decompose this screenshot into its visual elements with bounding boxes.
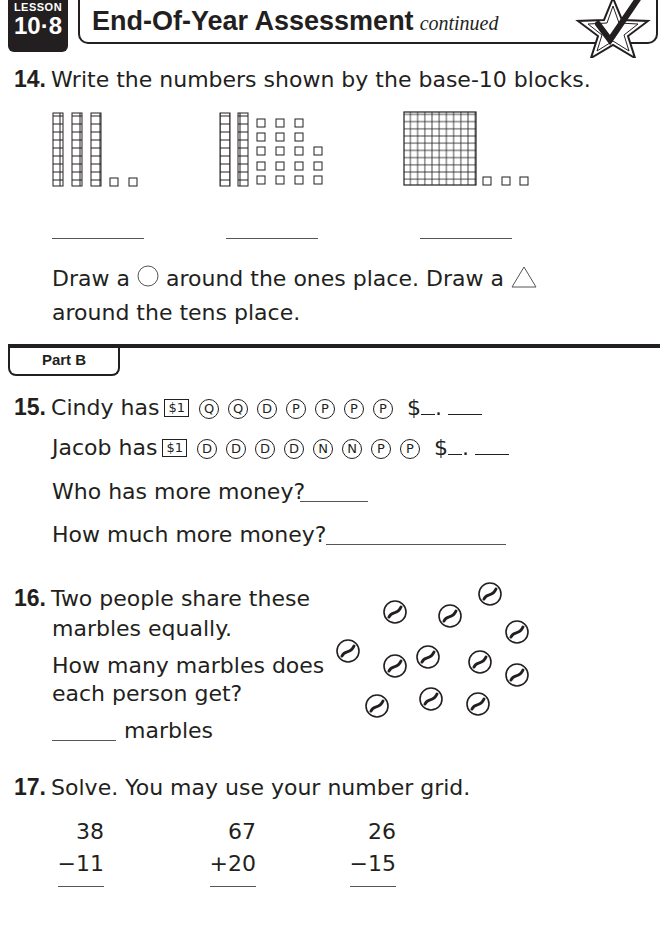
q16-prompt: 16. Two people share these marbles equal… xyxy=(14,584,310,645)
who-more-text: Who has more money? xyxy=(52,479,305,504)
instr-2: around the ones place. Draw a xyxy=(166,266,504,291)
dime-icon: D xyxy=(255,439,275,459)
penny-icon: P xyxy=(315,399,335,419)
decimal-point: . xyxy=(462,435,469,460)
marble-icon xyxy=(417,646,439,668)
penny-icon: P xyxy=(344,399,364,419)
marble-icon xyxy=(366,695,388,717)
q16-line1: Two people share these xyxy=(51,586,310,611)
dime-icon: D xyxy=(197,439,217,459)
q15-number: 15. xyxy=(14,394,46,420)
marble-icon xyxy=(467,693,489,715)
dollars-blank-cindy[interactable] xyxy=(421,414,435,415)
q17-text: Solve. You may use your number grid. xyxy=(51,775,470,800)
who-more-answer[interactable] xyxy=(300,501,368,502)
q15-question2: How much more money? xyxy=(52,522,326,547)
q14-number: 14. xyxy=(14,66,46,92)
q16-question: How many marbles does each person get? xyxy=(52,652,324,708)
quarter-icon: Q xyxy=(228,399,248,419)
cindy-label: Cindy has xyxy=(51,395,159,420)
answer-line-14b[interactable] xyxy=(226,238,318,239)
problem-1-bottom: −11 xyxy=(44,848,104,880)
problem-2-answer-line[interactable] xyxy=(210,886,256,887)
q16-line4: each person get? xyxy=(52,681,242,706)
how-much-more-answer[interactable] xyxy=(326,544,506,545)
part-b-label: Part B xyxy=(8,348,120,376)
penny-icon: P xyxy=(371,439,391,459)
marble-icon xyxy=(439,605,461,627)
problem-1-top: 38 xyxy=(44,816,104,848)
nickel-icon: N xyxy=(342,439,362,459)
block-set-3 xyxy=(404,112,528,185)
marble-icon xyxy=(469,651,491,673)
dollar-sign: $ xyxy=(434,435,448,460)
penny-icon: P xyxy=(286,399,306,419)
dollar-sign: $ xyxy=(407,395,421,420)
answer-line-14c[interactable] xyxy=(420,238,512,239)
q15-row-cindy: 15. Cindy has $1QQDPPPP $. xyxy=(14,394,482,421)
problem-1-answer-line[interactable] xyxy=(58,886,104,887)
quarter-icon: Q xyxy=(199,399,219,419)
star-checkmark-icon xyxy=(568,0,658,58)
marble-icon xyxy=(384,601,406,623)
answer-line-14a[interactable] xyxy=(52,238,144,239)
nickel-icon: N xyxy=(313,439,333,459)
marble-icon xyxy=(506,664,528,686)
triangle-icon xyxy=(511,265,537,289)
marbles-group xyxy=(320,570,560,730)
dollars-blank-jacob[interactable] xyxy=(448,454,462,455)
instr-3: around the tens place. xyxy=(52,300,300,325)
q16-number: 16. xyxy=(14,585,46,611)
marble-icon xyxy=(506,621,528,643)
block-set-1 xyxy=(53,113,137,186)
q14-text: Write the numbers shown by the base-10 b… xyxy=(51,67,591,92)
problem-2: 67 +20 xyxy=(196,816,256,887)
title-suffix: continued xyxy=(420,12,499,34)
lesson-tab: LESSON 10·8 xyxy=(8,0,68,52)
marbles-unit: marbles xyxy=(124,718,213,743)
problem-3-top: 26 xyxy=(336,816,396,848)
problem-3-answer-line[interactable] xyxy=(350,886,396,887)
instr-1: Draw a xyxy=(52,266,130,291)
dollar-bill-icon: $1 xyxy=(164,399,189,417)
marble-icon xyxy=(384,655,406,677)
dime-icon: D xyxy=(226,439,246,459)
problem-3-bottom: −15 xyxy=(336,848,396,880)
page-title: End-Of-Year Assessmentcontinued xyxy=(92,6,499,37)
title-main: End-Of-Year Assessment xyxy=(92,6,414,36)
marble-icon xyxy=(479,583,501,605)
q16-line3: How many marbles does xyxy=(52,653,324,678)
penny-icon: P xyxy=(373,399,393,419)
lesson-number: 10·8 xyxy=(8,13,68,39)
how-much-more-text: How much more money? xyxy=(52,522,326,547)
decimal-point: . xyxy=(435,395,442,420)
cents-blank-cindy[interactable] xyxy=(448,414,482,415)
problem-3: 26 −15 xyxy=(336,816,396,887)
cents-blank-jacob[interactable] xyxy=(475,454,509,455)
q15-question1: Who has more money? xyxy=(52,479,305,504)
dime-icon: D xyxy=(284,439,304,459)
q16-line2: marbles equally. xyxy=(52,616,232,641)
dollar-bill-icon: $1 xyxy=(162,439,187,457)
problem-2-top: 67 xyxy=(196,816,256,848)
block-set-2 xyxy=(220,113,322,186)
problem-2-bottom: +20 xyxy=(196,848,256,880)
q17-prompt: 17. Solve. You may use your number grid. xyxy=(14,774,470,801)
circle-icon xyxy=(137,265,159,289)
penny-icon: P xyxy=(400,439,420,459)
dime-icon: D xyxy=(257,399,277,419)
marble-icon xyxy=(337,640,359,662)
q14-prompt: 14. Write the numbers shown by the base-… xyxy=(14,66,591,93)
jacob-label: Jacob has xyxy=(52,435,157,460)
q15-row-jacob: Jacob has $1DDDDNNPP $. xyxy=(52,435,509,460)
q17-number: 17. xyxy=(14,774,46,800)
marbles-answer[interactable] xyxy=(52,740,116,741)
base10-blocks xyxy=(0,100,668,195)
marble-icon xyxy=(420,688,442,710)
q14-instruction: Draw a around the ones place. Draw a aro… xyxy=(52,262,572,330)
problem-1: 38 −11 xyxy=(44,816,104,887)
